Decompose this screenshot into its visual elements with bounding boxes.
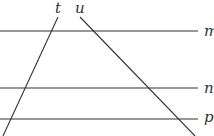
- diagram-canvas: t u m n p: [0, 0, 214, 136]
- label-p: p: [204, 108, 214, 126]
- label-t: t: [55, 0, 62, 17]
- label-m: m: [204, 22, 214, 40]
- label-u: u: [75, 0, 85, 17]
- transversal-t: [3, 17, 58, 136]
- label-n: n: [204, 79, 214, 97]
- transversal-u: [80, 17, 195, 136]
